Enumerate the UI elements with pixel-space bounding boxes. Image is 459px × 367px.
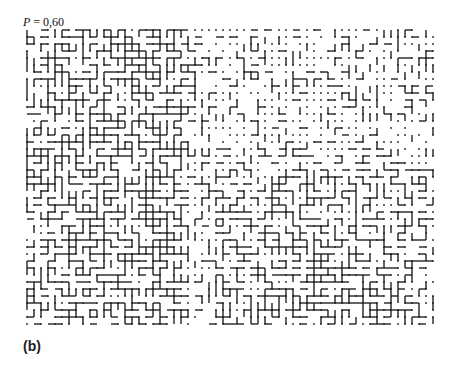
panel-label: (b) bbox=[23, 338, 41, 354]
percolation-lattice bbox=[0, 0, 459, 367]
